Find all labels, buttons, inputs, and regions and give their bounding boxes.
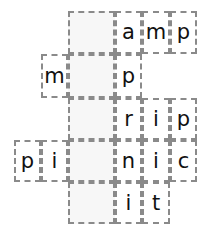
cell-letter: a	[122, 22, 135, 43]
grid-cell-empty[interactable]	[68, 98, 115, 140]
cell-letter: p	[21, 151, 34, 172]
cell-letter: i	[153, 151, 159, 172]
cell-letter: r	[124, 109, 133, 130]
cell-letter: i	[52, 151, 58, 172]
grid-cell-empty[interactable]	[68, 182, 115, 224]
cell-letter: m	[146, 22, 166, 43]
grid-cell-letter[interactable]: p	[115, 54, 142, 98]
grid-cell-letter[interactable]: i	[142, 140, 170, 182]
grid-cell-letter[interactable]: a	[115, 11, 142, 54]
grid-cell-letter[interactable]: p	[170, 98, 197, 140]
grid-cell-letter[interactable]: i	[115, 182, 142, 224]
cell-letter: t	[152, 193, 160, 214]
grid-cell-empty[interactable]	[68, 140, 115, 182]
grid-cell-letter[interactable]: c	[170, 140, 197, 182]
grid-cell-letter[interactable]: n	[115, 140, 142, 182]
crossword-grid: ampmprippinicit	[0, 0, 214, 236]
cell-letter: p	[122, 66, 135, 87]
grid-cell-letter[interactable]: m	[41, 54, 68, 98]
cell-letter: i	[126, 193, 132, 214]
grid-cell-letter[interactable]: m	[142, 11, 170, 54]
cell-letter: n	[122, 151, 135, 172]
grid-cell-letter[interactable]: i	[41, 140, 68, 182]
grid-cell-letter[interactable]: r	[115, 98, 142, 140]
cell-letter: c	[178, 151, 190, 172]
grid-cell-empty[interactable]	[68, 11, 115, 54]
cell-letter: m	[44, 66, 64, 87]
grid-cell-letter[interactable]: i	[142, 98, 170, 140]
cell-letter: p	[177, 109, 190, 130]
cell-letter: p	[177, 22, 190, 43]
grid-cell-letter[interactable]: p	[14, 140, 41, 182]
grid-cell-letter[interactable]: p	[170, 11, 197, 54]
cell-letter: i	[153, 109, 159, 130]
grid-cell-letter[interactable]: t	[142, 182, 170, 224]
grid-cell-empty[interactable]	[68, 54, 115, 98]
